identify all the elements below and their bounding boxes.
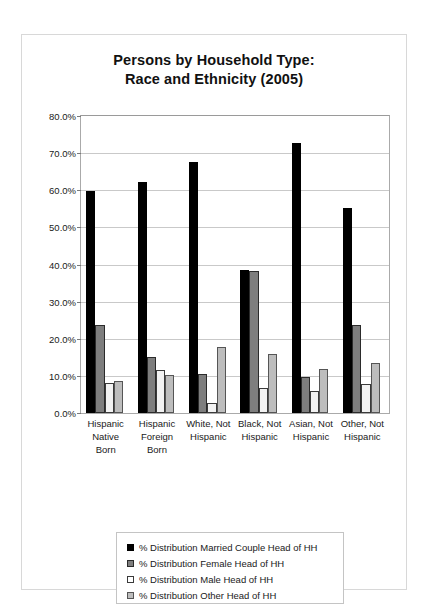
bar: [86, 191, 95, 413]
legend-item[interactable]: % Distribution Married Couple Head of HH: [127, 540, 343, 555]
bar: [292, 143, 301, 413]
y-axis-tick-label: 70.0%: [49, 148, 76, 159]
bar: [259, 388, 268, 413]
bar-group: [132, 116, 183, 413]
x-axis-label-line: Hispanic: [333, 430, 392, 443]
bar: [217, 347, 226, 413]
bar: [240, 270, 249, 413]
legend-item[interactable]: % Distribution Other Head of HH: [127, 588, 343, 603]
legend-label: % Distribution Other Head of HH: [139, 590, 276, 601]
bar: [165, 375, 174, 413]
y-axis-tick-mark: [77, 413, 81, 414]
bar: [352, 325, 361, 413]
chart-frame: Persons by Household Type: Race and Ethn…: [21, 34, 407, 590]
bar: [198, 374, 207, 413]
y-axis-tick-label: 30.0%: [49, 296, 76, 307]
bar: [361, 384, 370, 413]
legend-swatch-icon: [127, 592, 134, 599]
bar: [268, 354, 277, 413]
bar-group: [338, 116, 389, 413]
legend-label: % Distribution Male Head of HH: [139, 574, 273, 585]
bar: [371, 363, 380, 413]
bar: [343, 208, 352, 413]
y-axis-tick-label: 20.0%: [49, 333, 76, 344]
chart-title: Persons by Household Type: Race and Ethn…: [22, 51, 406, 89]
bar: [147, 357, 156, 413]
chart-title-line-2: Race and Ethnicity (2005): [22, 70, 406, 89]
x-axis-label-line: Other, Not: [333, 417, 392, 430]
bar-group: [235, 116, 286, 413]
bar: [310, 391, 319, 413]
y-axis-tick-label: 60.0%: [49, 185, 76, 196]
legend-swatch-icon: [127, 576, 134, 583]
bar: [301, 377, 310, 413]
legend-label: % Distribution Female Head of HH: [139, 558, 284, 569]
y-axis-tick-label: 0.0%: [54, 408, 76, 419]
bar: [138, 182, 147, 413]
chart-legend: % Distribution Married Couple Head of HH…: [116, 532, 344, 604]
legend-item[interactable]: % Distribution Male Head of HH: [127, 572, 343, 587]
bar: [207, 403, 216, 413]
bar-group: [286, 116, 337, 413]
bar: [319, 369, 328, 413]
chart-page: Persons by Household Type: Race and Ethn…: [0, 0, 428, 615]
bar-group: [81, 116, 132, 413]
bar: [95, 325, 104, 413]
y-axis-tick-label: 10.0%: [49, 370, 76, 381]
bar: [249, 271, 258, 413]
y-axis-tick-label: 40.0%: [49, 259, 76, 270]
x-axis-labels: HispanicNativeBornHispanicForeignBornWhi…: [80, 417, 390, 475]
x-axis-label: Other, NotHispanic: [333, 417, 392, 443]
bar: [105, 383, 114, 413]
legend-swatch-icon: [127, 560, 134, 567]
legend-item[interactable]: % Distribution Female Head of HH: [127, 556, 343, 571]
legend-swatch-icon: [127, 544, 134, 551]
bar-group: [184, 116, 235, 413]
legend-label: % Distribution Married Couple Head of HH: [139, 542, 317, 553]
plot-area: 80.0%70.0%60.0%50.0%40.0%30.0%20.0%10.0%…: [80, 115, 390, 414]
y-axis-tick-label: 80.0%: [49, 111, 76, 122]
y-axis-tick-label: 50.0%: [49, 222, 76, 233]
bar: [114, 381, 123, 413]
x-axis-label-line: Born: [127, 443, 186, 456]
bar: [156, 370, 165, 413]
chart-title-line-1: Persons by Household Type:: [22, 51, 406, 70]
bar: [189, 162, 198, 413]
